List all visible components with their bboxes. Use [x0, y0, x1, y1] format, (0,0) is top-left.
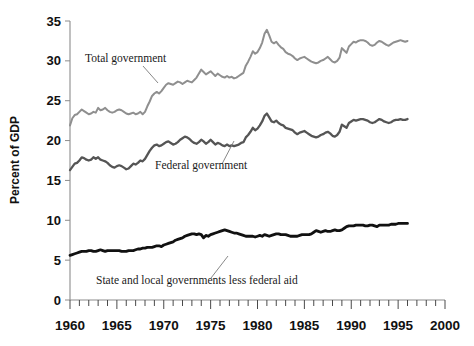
line-chart: 05101520253035 1960196519701975198019851… — [0, 0, 474, 346]
leader-line-total-government — [143, 66, 158, 83]
y-tick-label: 10 — [47, 213, 61, 228]
y-tick-label: 0 — [54, 293, 61, 308]
y-tick-label: 25 — [47, 93, 61, 108]
y-tick-label: 15 — [47, 173, 61, 188]
x-tick-label: 1995 — [383, 318, 414, 333]
x-tick-label: 1960 — [55, 318, 85, 333]
y-tick-label: 35 — [47, 14, 61, 29]
annotation-label-total-government: Total government — [85, 52, 167, 65]
y-axis: 05101520253035 — [47, 14, 70, 308]
series-line-2 — [70, 223, 408, 255]
x-tick-label: 1980 — [242, 318, 272, 333]
x-tick-label: 1985 — [289, 318, 320, 333]
x-tick-label: 2000 — [430, 318, 460, 333]
x-axis: 196019651970197519801985199019952000 — [55, 300, 460, 333]
chart-container: 05101520253035 1960196519701975198019851… — [0, 0, 474, 346]
annotation-label-state-local-less-federal-aid: State and local governments less federal… — [96, 274, 298, 287]
y-axis-title: Percent of GDP — [8, 116, 22, 204]
x-tick-label: 1975 — [196, 318, 227, 333]
y-tick-label: 5 — [54, 253, 61, 268]
x-tick-label: 1990 — [336, 318, 366, 333]
annotation-label-federal-government: Federal government — [155, 159, 248, 172]
x-tick-label: 1970 — [149, 318, 179, 333]
series-line-0 — [70, 30, 408, 126]
y-tick-label: 30 — [47, 53, 61, 68]
x-tick-label: 1965 — [102, 318, 133, 333]
y-tick-label: 20 — [47, 133, 61, 148]
